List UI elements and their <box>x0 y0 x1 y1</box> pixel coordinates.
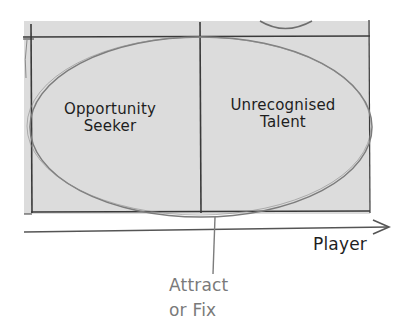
bottom-edge-line <box>31 211 370 212</box>
annotation-leader-line <box>213 217 215 274</box>
x-axis-line <box>24 227 388 232</box>
x-axis-label: Player <box>300 235 380 255</box>
quadrant-divider <box>200 22 201 213</box>
quadrant-label-opportunity-seeker: Opportunity Seeker <box>40 101 180 136</box>
quadrant-label-unrecognised-talent: Unrecognised Talent <box>208 97 358 132</box>
highlight-annotation: Attract or Fix <box>169 273 269 322</box>
quadrant-diagram: Opportunity Seeker Unrecognised Talent P… <box>0 0 416 332</box>
